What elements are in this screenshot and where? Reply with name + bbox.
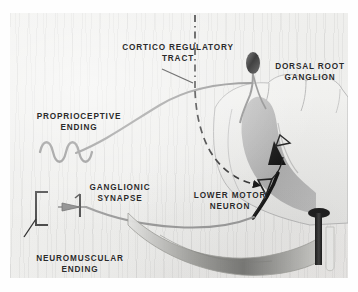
anatomical-photograph-plate: CORTICO REGULATORY TRACT DORSAL ROOT GAN… xyxy=(10,13,348,278)
proprioceptive-squiggle-receptor xyxy=(40,142,92,162)
label-lower-motor-neuron: LOWER MOTOR NEURON xyxy=(175,191,285,212)
neuromuscular-end-plate-bracket xyxy=(24,192,48,237)
label-cortico-regulatory-tract: CORTICO REGULATORY TRACT xyxy=(118,43,238,64)
label-proprioceptive-ending: PROPRIOCEPTIVE ENDING xyxy=(24,112,134,133)
label-dorsal-root-ganglion: DORSAL ROOT GANGLION xyxy=(258,62,348,83)
cortico-label-leader xyxy=(162,69,193,83)
label-ganglionic-synapse: GANGLIONIC SYNAPSE xyxy=(68,183,172,204)
figure-canvas: CORTICO REGULATORY TRACT DORSAL ROOT GAN… xyxy=(0,0,358,292)
label-neuromuscular-ending: NEUROMUSCULAR ENDING xyxy=(18,254,142,275)
muscle-tendon-band xyxy=(128,213,320,275)
